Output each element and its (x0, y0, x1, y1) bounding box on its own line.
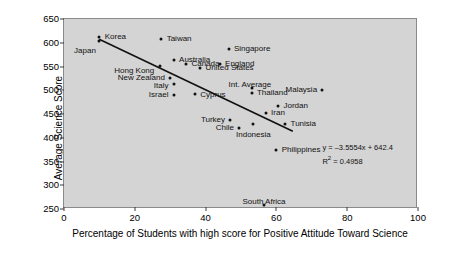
regression-equation-annotation: y = –3.5554x + 642.4 R2 = 0.4958 (322, 143, 392, 166)
y-tick-label: 400 (43, 133, 59, 143)
regression-equation-text: y = –3.5554x + 642.4 (322, 143, 392, 153)
plot-area: 250300350400450500550600650 020406080100… (63, 18, 417, 208)
scatter-plot-figure: Average Science Score Percentage of Stud… (0, 0, 452, 255)
x-tick-mark (418, 207, 419, 211)
x-tick-mark (347, 207, 348, 211)
y-tick-label: 600 (43, 38, 59, 48)
x-tick-label: 60 (271, 213, 282, 223)
x-tick-label: 100 (410, 213, 426, 223)
x-tick-mark (134, 207, 135, 211)
x-axis-label: Percentage of Students with high score f… (63, 228, 417, 239)
y-tick-label: 450 (43, 109, 59, 119)
r-squared-text: R2 = 0.4958 (322, 154, 392, 167)
x-tick-mark (64, 207, 65, 211)
x-tick-mark (276, 207, 277, 211)
y-tick-label: 250 (43, 204, 59, 214)
x-tick-label: 0 (61, 213, 66, 223)
y-tick-label: 500 (43, 86, 59, 96)
y-tick-label: 350 (43, 157, 59, 167)
r-squared-value: = 0.4958 (333, 156, 362, 165)
x-tick-mark (205, 207, 206, 211)
y-tick-label: 300 (43, 181, 59, 191)
y-tick-label: 550 (43, 62, 59, 72)
trend-line (64, 19, 416, 207)
r-squared-exponent: 2 (328, 155, 331, 161)
y-tick-label: 650 (43, 14, 59, 24)
x-tick-label: 80 (342, 213, 353, 223)
x-tick-label: 20 (130, 213, 141, 223)
x-tick-label: 40 (200, 213, 211, 223)
